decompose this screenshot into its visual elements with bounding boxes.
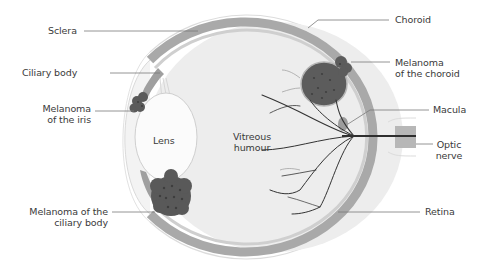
label-lens: Lens [153,135,175,146]
label-melanoma-iris-line1: Melanoma [27,103,91,114]
label-melanoma-choroid-line2: of the choroid [395,68,460,79]
label-vitreous-humour: Vitreous humour [229,131,275,153]
macula-shape [338,117,348,131]
label-retina: Retina [425,206,455,217]
label-vitreous-line1: Vitreous [229,131,275,142]
label-melanoma-ciliary-line2: ciliary body [20,217,108,228]
label-melanoma-ciliary-line1: Melanoma of the [20,206,108,217]
label-choroid: Choroid [395,14,431,25]
label-ciliary-body: Ciliary body [22,67,77,78]
label-melanoma-choroid-line1: Melanoma [395,57,460,68]
label-optic-nerve-line1: Optic [434,139,464,150]
label-vitreous-line2: humour [229,142,275,153]
label-macula: Macula [433,104,466,115]
label-sclera: Sclera [48,25,77,36]
label-melanoma-ciliary-body: Melanoma of the ciliary body [20,206,108,228]
label-melanoma-iris-line2: of the iris [27,114,91,125]
label-optic-nerve: Optic nerve [434,139,464,161]
label-melanoma-iris: Melanoma of the iris [27,103,91,125]
label-melanoma-choroid: Melanoma of the choroid [395,57,460,79]
eye-melanoma-diagram: Sclera Ciliary body Melanoma of the iris… [0,0,482,269]
label-optic-nerve-line2: nerve [434,150,464,161]
